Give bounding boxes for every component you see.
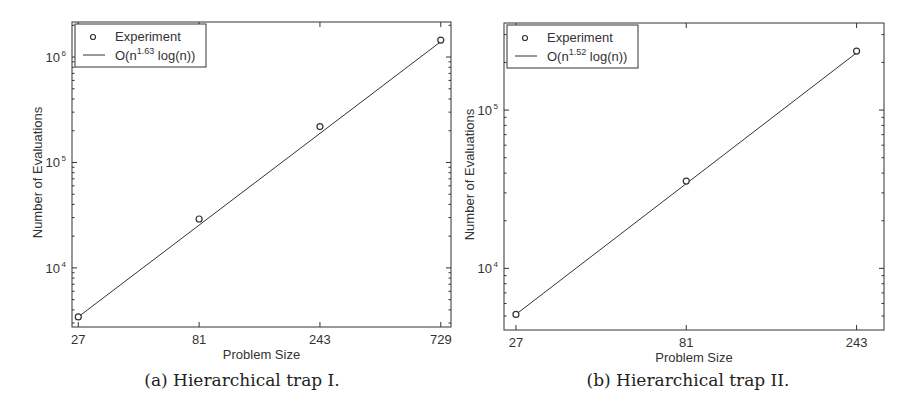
data-point [438,37,444,43]
x-tick-label: 243 [846,335,868,350]
data-point [513,311,519,317]
y-axis-label: Number of Evaluations [462,108,477,240]
legend-marker-icon [91,35,96,40]
y-axis-label: Number of Evaluations [30,106,45,238]
data-point [196,216,202,222]
y-tick-exponent: 5 [494,102,499,111]
y-tick-label: 10 [46,261,60,276]
data-point [854,48,860,54]
axes-box [504,23,884,330]
data-point [317,124,323,130]
x-tick-label: 81 [192,332,206,347]
legend-label-experiment: Experiment [547,30,613,45]
legend: ExperimentO(n1.63 log(n)) [75,24,206,67]
y-tick-label: 10 [478,261,492,276]
plot-hierarchical-trap-1: 2781243729104105106Problem SizeNumber of… [30,22,452,362]
legend: ExperimentO(n1.52 log(n)) [507,25,638,68]
x-tick-label: 27 [71,332,85,347]
fit-line [78,42,440,317]
data-point [75,314,81,320]
y-tick-exponent: 4 [494,260,499,269]
legend-label-fit: O(n1.63 log(n)) [115,46,195,63]
axes-box [72,22,451,327]
x-tick-label: 243 [309,332,331,347]
x-tick-label: 27 [509,335,523,350]
caption-a: (a) Hierarchical trap I. [144,370,339,390]
y-tick-label: 10 [46,50,60,65]
x-axis-label: Problem Size [223,347,300,362]
x-axis-label: Problem Size [655,350,732,365]
y-tick-exponent: 4 [62,260,67,269]
y-tick-exponent: 5 [62,154,67,163]
legend-marker-icon [523,36,528,41]
x-tick-label: 81 [679,335,693,350]
data-point [683,178,689,184]
y-tick-label: 10 [478,103,492,118]
legend-label-experiment: Experiment [115,29,181,44]
x-tick-label: 729 [430,332,452,347]
caption-b: (b) Hierarchical trap II. [587,370,790,390]
y-tick-label: 10 [46,155,60,170]
figure-canvas: 2781243729104105106Problem SizeNumber of… [0,0,916,418]
legend-label-fit: O(n1.52 log(n)) [547,47,627,64]
y-tick-exponent: 6 [62,49,67,58]
plot-hierarchical-trap-2: 2781243104105Problem SizeNumber of Evalu… [462,23,884,365]
